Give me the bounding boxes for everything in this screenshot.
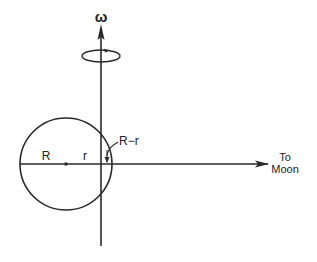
radius-R-label: R: [42, 149, 51, 163]
rotation-direction-icon: [104, 49, 110, 53]
omega-label: ω: [95, 8, 108, 25]
to-label: To: [279, 151, 291, 163]
earth-moon-diagram: ω R r R−r To Moon: [0, 0, 317, 262]
R-minus-r-label: R−r: [119, 134, 139, 148]
distance-r-label: r: [83, 149, 87, 163]
moon-label: Moon: [271, 163, 299, 175]
